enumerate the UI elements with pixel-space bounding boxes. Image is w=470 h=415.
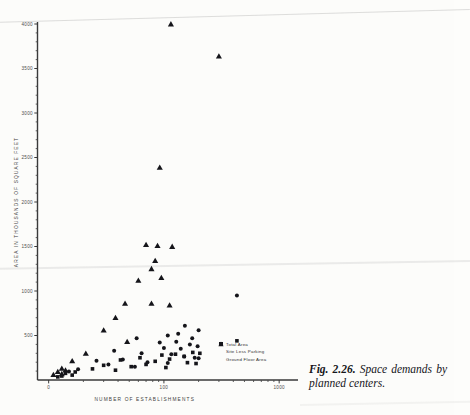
y-tick-label: 3000: [21, 111, 33, 116]
data-point-circle: [166, 361, 170, 365]
data-point-triangle: [154, 243, 160, 248]
data-point-circle: [179, 347, 183, 351]
data-point-circle: [135, 336, 139, 340]
data-point-square: [138, 356, 142, 360]
data-point-triangle: [148, 266, 154, 271]
y-tick-label: 3500: [21, 66, 33, 71]
data-point-circle: [235, 293, 239, 297]
data-point-circle: [166, 334, 170, 338]
data-point-triangle: [59, 366, 65, 371]
data-point-triangle: [216, 53, 222, 58]
data-point-circle: [169, 352, 173, 356]
data-point-square: [153, 360, 157, 364]
data-point-square: [182, 355, 186, 359]
data-point-square: [186, 361, 190, 365]
data-point-triangle: [143, 242, 149, 247]
data-point-circle: [176, 332, 180, 336]
data-point-circle: [67, 370, 71, 374]
y-tick-label: 4000: [21, 22, 33, 27]
data-point-triangle: [124, 339, 130, 344]
data-point-circle: [162, 346, 166, 350]
x-tick-label: 0: [47, 385, 50, 390]
data-point-triangle: [83, 350, 89, 355]
data-point-square: [144, 363, 148, 367]
data-point-triangle: [168, 21, 174, 26]
data-point-circle: [106, 362, 110, 366]
chart-legend: Total Area Site Less Parking Ground Floo…: [218, 341, 266, 363]
x-tick-label: 100: [160, 385, 169, 390]
data-point-circle: [196, 344, 200, 348]
scan-streak-bottom: [300, 401, 470, 406]
series-triangle: [50, 21, 222, 377]
data-point-square: [198, 352, 202, 356]
y-tick-label: 1000: [21, 289, 33, 294]
data-point-square: [114, 368, 118, 372]
data-point-square: [60, 374, 64, 378]
data-point-circle: [190, 336, 194, 340]
data-point-circle: [133, 365, 137, 369]
data-point-square: [194, 362, 198, 366]
data-point-triangle: [112, 315, 118, 320]
x-tick-label: 1000: [273, 385, 285, 390]
data-point-triangle: [169, 244, 175, 249]
data-point-square: [56, 375, 60, 379]
data-point-square: [119, 358, 123, 362]
data-point-square: [64, 372, 68, 376]
series-square: [56, 339, 239, 379]
data-point-square: [174, 352, 178, 356]
y-tick-label: 2000: [21, 200, 33, 205]
data-point-triangle: [101, 327, 107, 332]
legend-label-ground-floor-area: Ground Floor Area: [226, 356, 266, 363]
scatter-figure: 500100015002000250030003500400001001000N…: [0, 0, 300, 415]
data-point-circle: [197, 328, 201, 332]
legend-label-site-less-parking: Site Less Parking: [226, 348, 264, 355]
figure-caption: Fig. 2.26. Space demands by planned cent…: [309, 363, 447, 390]
data-point-triangle: [157, 164, 163, 169]
data-point-triangle: [152, 258, 158, 263]
data-point-square: [191, 351, 195, 355]
data-point-circle: [174, 340, 178, 344]
data-point-square: [73, 370, 77, 374]
data-point-circle: [197, 356, 201, 360]
data-point-square: [160, 353, 164, 357]
data-point-circle: [188, 342, 192, 346]
data-point-triangle: [135, 277, 141, 282]
data-point-circle: [112, 349, 116, 353]
caption-figure-number: Fig. 2.26.: [309, 363, 356, 375]
data-point-square: [168, 357, 172, 361]
data-point-triangle: [158, 275, 164, 280]
data-point-triangle: [167, 302, 173, 307]
data-point-circle: [140, 351, 144, 355]
data-point-square: [91, 367, 95, 371]
legend-item-site-less-parking: Site Less Parking: [218, 348, 266, 355]
data-point-circle: [193, 356, 197, 360]
data-point-square: [129, 365, 133, 369]
x-axis-title: NUMBER OF ESTABLISHMENTS: [94, 397, 195, 402]
y-axis-title: AREA IN THOUSANDS OF SQUARE FEET: [14, 137, 19, 267]
data-point-square: [164, 366, 168, 370]
data-point-circle: [183, 324, 187, 328]
data-point-circle: [158, 341, 162, 345]
data-point-triangle: [148, 301, 154, 306]
data-point-square: [70, 373, 74, 377]
data-point-triangle: [69, 358, 75, 363]
y-tick-label: 2500: [21, 155, 33, 160]
y-tick-label: 1500: [21, 244, 33, 249]
data-point-circle: [94, 359, 98, 363]
data-point-triangle: [122, 301, 128, 306]
legend-item-total-area: Total Area: [218, 341, 266, 348]
legend-label-total-area: Total Area: [226, 341, 248, 348]
y-tick-label: 500: [24, 333, 33, 338]
data-point-square: [102, 364, 106, 368]
legend-item-ground-floor-area: Ground Floor Area: [218, 356, 266, 363]
